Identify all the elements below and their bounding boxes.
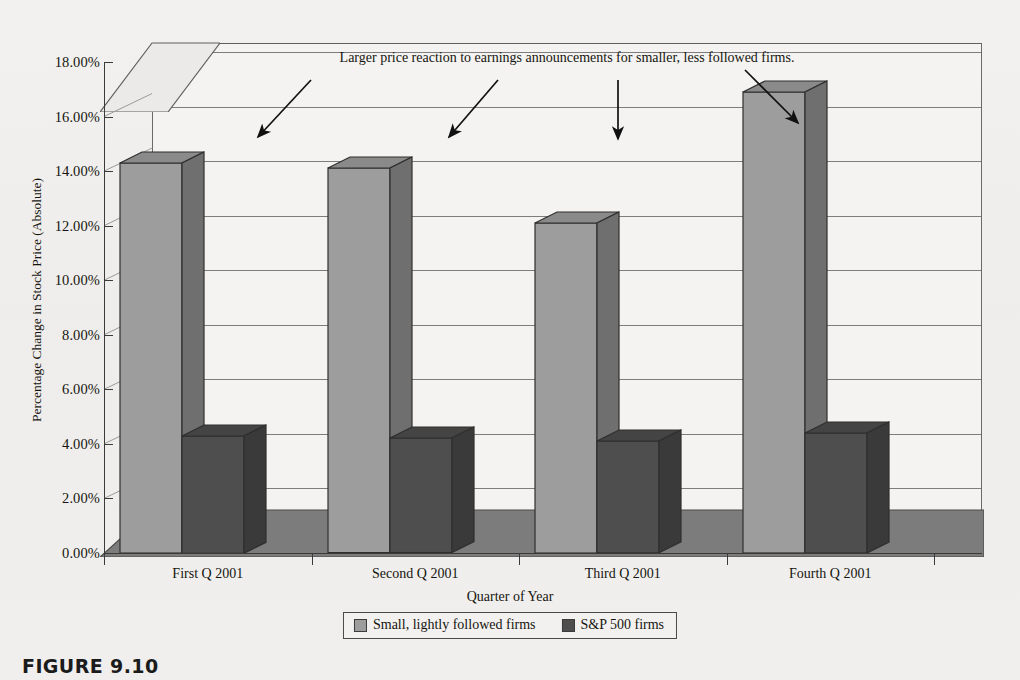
bar (805, 433, 867, 553)
x-axis-title: Quarter of Year (0, 589, 1020, 605)
y-axis-tick (104, 280, 113, 281)
y-axis-label: 14.00% (8, 163, 100, 180)
y-axis-label: 4.00% (8, 435, 100, 452)
chart-legend: Small, lightly followed firmsS&P 500 fir… (343, 612, 677, 639)
bar (743, 92, 805, 553)
y-axis-label: 18.00% (8, 54, 100, 71)
y-axis-tick (104, 226, 113, 227)
x-axis-label: Third Q 2001 (508, 566, 738, 582)
x-axis-tick (519, 553, 520, 565)
y-axis-tick (104, 117, 113, 118)
y-axis-tick (104, 335, 113, 336)
y-axis-tick (104, 389, 113, 390)
x-axis-tick (934, 553, 935, 565)
figure-page: 0.00%2.00%4.00%6.00%8.00%10.00%12.00%14.… (0, 0, 1020, 680)
bar (535, 223, 597, 553)
legend-swatch-icon (562, 619, 575, 632)
legend-label: Small, lightly followed firms (373, 617, 536, 633)
y-axis-label: 16.00% (8, 108, 100, 125)
x-axis-tick (312, 553, 313, 565)
x-axis-tick (104, 553, 105, 565)
x-axis-label: First Q 2001 (93, 566, 323, 582)
y-axis-label: 8.00% (8, 326, 100, 343)
gridline (153, 107, 981, 108)
chart-annotation: Larger price reaction to earnings announ… (152, 50, 982, 66)
y-axis-tick (104, 62, 113, 63)
y-axis-label: 2.00% (8, 490, 100, 507)
legend-swatch-icon (354, 619, 367, 632)
y-axis-label: 12.00% (8, 217, 100, 234)
y-axis-label: 10.00% (8, 272, 100, 289)
bar (328, 168, 390, 553)
legend-item: S&P 500 firms (562, 617, 665, 633)
bar (120, 163, 182, 553)
bar (182, 436, 244, 553)
bar (390, 438, 452, 553)
legend-item: Small, lightly followed firms (354, 617, 536, 633)
x-axis-label: Second Q 2001 (300, 566, 530, 582)
x-axis-label: Fourth Q 2001 (715, 566, 945, 582)
legend-label: S&P 500 firms (581, 617, 665, 633)
bar-chart: 0.00%2.00%4.00%6.00%8.00%10.00%12.00%14.… (0, 0, 1020, 648)
figure-caption: FIGURE 9.10 (22, 655, 159, 677)
y-axis-title: Percentage Change in Stock Price (Absolu… (29, 135, 45, 465)
x-axis-tick (727, 553, 728, 565)
bar (597, 441, 659, 553)
y-axis-tick (104, 444, 113, 445)
y-axis-label: 0.00% (8, 545, 100, 562)
y-axis-tick (104, 498, 113, 499)
y-axis-line (104, 62, 105, 554)
y-axis-tick (104, 171, 113, 172)
y-axis-label: 6.00% (8, 381, 100, 398)
x-axis-line (104, 553, 982, 554)
gridline (153, 161, 981, 162)
